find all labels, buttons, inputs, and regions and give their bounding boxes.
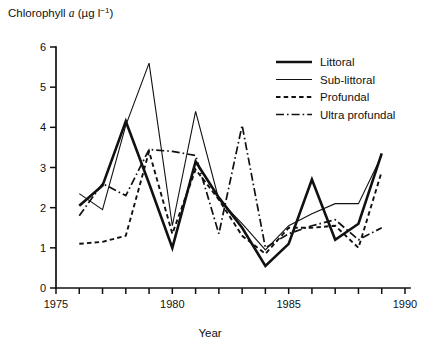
x-tick-label: 1980 (160, 298, 184, 310)
x-axis-title: Year (198, 327, 221, 339)
y-tick-label: 1 (40, 242, 46, 254)
y-tick-label: 5 (40, 81, 46, 93)
x-tick-label: 1975 (44, 298, 68, 310)
legend-label-2: Profundal (320, 91, 369, 103)
legend-label-1: Sub-littoral (320, 74, 375, 86)
x-tick-label: 1985 (276, 298, 300, 310)
y-tick-label: 3 (40, 162, 46, 174)
y-tick-label: 2 (40, 202, 46, 214)
y-tick-label: 0 (40, 282, 46, 294)
y-tick-label: 4 (40, 121, 46, 133)
y-tick-label: 6 (40, 41, 46, 53)
legend-label-3: Ultra profundal (320, 109, 395, 121)
chlorophyll-line-chart: Chlorophyll a (µg l−1) 0123456 197519801… (0, 0, 421, 344)
y-axis-title: Chlorophyll a (µg l−1) (8, 6, 113, 20)
legend-label-0: Littoral (320, 56, 355, 68)
x-tick-label: 1990 (393, 298, 417, 310)
